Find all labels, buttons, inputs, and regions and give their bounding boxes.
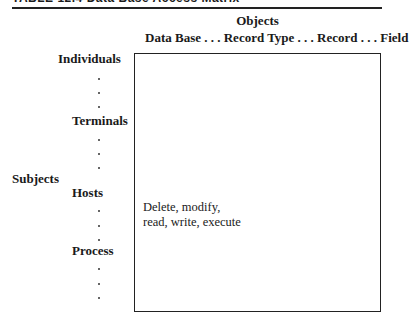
table-title: TABLE 12.4 Data Base Access Matrix (12, 0, 240, 5)
ellipsis-dot (98, 283, 100, 285)
title-rule-divider (12, 7, 382, 9)
subject-individuals: Individuals (58, 51, 121, 67)
ellipsis-dot (98, 92, 100, 94)
access-matrix-box (134, 53, 381, 312)
access-rights-line-1: Delete, modify, (143, 200, 241, 215)
subjects-axis-label: Subjects (12, 171, 59, 187)
ellipsis-dot (98, 106, 100, 108)
access-rights-cell: Delete, modify, read, write, execute (143, 200, 241, 230)
ellipsis-dot (98, 239, 100, 241)
access-rights-line-2: read, write, execute (143, 215, 241, 230)
ellipsis-dot (98, 225, 100, 227)
objects-axis-label: Objects (0, 13, 413, 29)
ellipsis-dot (98, 167, 100, 169)
subject-hosts: Hosts (72, 185, 103, 201)
objects-hierarchy-header: Data Base . . . Record Type . . . Record… (145, 30, 408, 46)
ellipsis-dot (98, 210, 100, 212)
ellipsis-dot (98, 139, 100, 141)
ellipsis-dot (98, 297, 100, 299)
ellipsis-dot (98, 268, 100, 270)
ellipsis-dot (98, 78, 100, 80)
subject-process: Process (72, 243, 114, 259)
ellipsis-dot (98, 153, 100, 155)
subject-terminals: Terminals (72, 113, 128, 129)
